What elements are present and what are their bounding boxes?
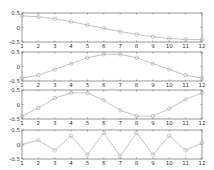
x-tick-label: 4 [69, 160, 73, 166]
x-tick-label: 6 [102, 43, 106, 49]
x-tick-label: 3 [53, 160, 57, 166]
x-tick-label: 5 [86, 120, 90, 126]
x-tick-label: 8 [135, 120, 139, 126]
subplot-3: 1234567891011120.50-0.5 [9, 87, 205, 126]
x-tick-label: 2 [37, 43, 41, 49]
subplot-4: 1234567891011120.50-0.5 [9, 127, 205, 166]
y-tick-label: 0 [17, 102, 21, 108]
y-tick-label: 0.5 [11, 10, 20, 16]
x-tick-label: 11 [182, 82, 189, 88]
x-tick-label: 5 [86, 43, 90, 49]
x-tick-label: 7 [118, 120, 122, 126]
y-tick-label: 0 [17, 142, 21, 148]
x-tick-label: 7 [118, 160, 122, 166]
x-tick-label: 10 [166, 82, 173, 88]
series-line [22, 93, 202, 116]
x-tick-label: 2 [37, 82, 41, 88]
x-tick-label: 5 [86, 82, 90, 88]
x-tick-label: 5 [86, 160, 90, 166]
y-tick-label: -0.5 [9, 156, 20, 162]
x-tick-label: 7 [118, 43, 122, 49]
x-tick-label: 7 [118, 82, 122, 88]
series-line [22, 54, 202, 78]
x-tick-label: 12 [199, 43, 206, 49]
y-tick-label: 0.5 [11, 127, 20, 133]
x-tick-label: 4 [69, 120, 73, 126]
axes-box [22, 90, 202, 119]
axes-box [22, 52, 202, 81]
x-tick-label: 6 [102, 160, 106, 166]
series-line [22, 133, 202, 156]
y-tick-label: 0.5 [11, 49, 20, 55]
y-tick-label: 0 [17, 25, 21, 31]
x-tick-label: 2 [37, 160, 41, 166]
x-tick-label: 6 [102, 120, 106, 126]
y-tick-label: 0.5 [11, 87, 20, 93]
x-tick-label: 9 [151, 43, 155, 49]
x-tick-label: 12 [199, 160, 206, 166]
x-tick-label: 1 [20, 82, 24, 88]
x-tick-label: 8 [135, 160, 139, 166]
x-tick-label: 10 [166, 160, 173, 166]
figure: 1234567891011120.50-0.51234567891011120.… [0, 0, 214, 170]
axes-box [22, 13, 202, 42]
x-tick-label: 4 [69, 82, 73, 88]
x-tick-label: 4 [69, 43, 73, 49]
y-tick-label: -0.5 [9, 78, 20, 84]
x-tick-label: 9 [151, 82, 155, 88]
series-line [22, 16, 202, 40]
x-tick-label: 2 [37, 120, 41, 126]
x-tick-label: 3 [53, 120, 57, 126]
x-tick-label: 8 [135, 82, 139, 88]
y-tick-label: -0.5 [9, 116, 20, 122]
x-tick-label: 12 [199, 120, 206, 126]
x-tick-label: 11 [182, 43, 189, 49]
x-tick-label: 9 [151, 120, 155, 126]
x-tick-label: 6 [102, 82, 106, 88]
subplot-2: 1234567891011120.50-0.5 [9, 49, 205, 88]
x-tick-label: 8 [135, 43, 139, 49]
y-tick-label: -0.5 [9, 39, 20, 45]
x-tick-label: 10 [166, 43, 173, 49]
x-tick-label: 1 [20, 120, 24, 126]
x-tick-label: 1 [20, 43, 24, 49]
x-tick-label: 9 [151, 160, 155, 166]
x-tick-label: 11 [182, 120, 189, 126]
y-tick-label: 0 [17, 64, 21, 70]
x-tick-label: 3 [53, 43, 57, 49]
x-tick-label: 11 [182, 160, 189, 166]
subplot-1: 1234567891011120.50-0.5 [9, 10, 205, 49]
x-tick-label: 12 [199, 82, 206, 88]
x-tick-label: 1 [20, 160, 24, 166]
x-tick-label: 10 [166, 120, 173, 126]
x-tick-label: 3 [53, 82, 57, 88]
